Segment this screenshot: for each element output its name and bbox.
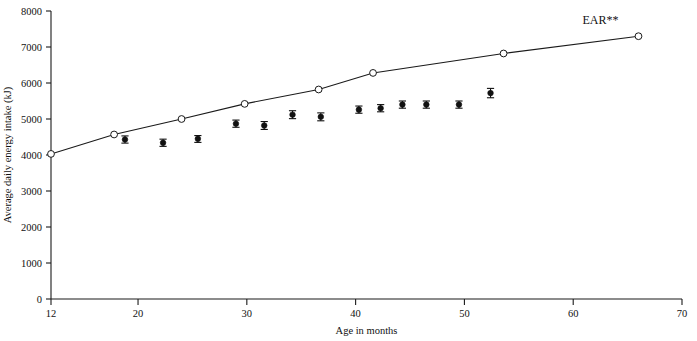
x-tick-label: 30 [242,308,253,319]
data-point-filled-circle [290,112,296,118]
data-point-filled-circle [456,102,462,108]
y-tick-label: 2000 [21,222,42,233]
data-point-filled-circle [400,102,406,108]
data-point-open-circle [48,151,55,158]
data-point-open-circle [635,33,642,40]
data-point-open-circle [370,70,377,77]
y-tick-label: 0 [37,294,42,305]
x-tick-label: 50 [459,308,470,319]
series-line-open-circle [51,36,638,154]
data-point-open-circle [178,116,185,123]
y-tick-label: 8000 [21,6,42,17]
data-point-filled-circle [378,105,384,111]
data-point-filled-circle [195,136,201,142]
x-tick-label: 40 [350,308,361,319]
y-axis-title: Average daily energy intake (kJ) [2,86,14,223]
data-point-open-circle [241,100,248,107]
y-axis-ticks: 010002000300040005000600070008000 [21,6,51,305]
data-point-filled-circle [160,140,166,146]
data-point-filled-circle [233,121,239,127]
figure-container: 010002000300040005000600070008000 122030… [0,0,697,341]
series-annotation-label: EAR** [582,13,618,27]
data-series-layer [48,33,642,158]
data-point-open-circle [111,131,118,138]
y-tick-label: 1000 [21,258,42,269]
data-point-filled-circle [488,90,494,96]
data-point-filled-circle [318,114,324,120]
y-tick-label: 6000 [21,78,42,89]
data-point-filled-circle [356,107,362,113]
y-tick-label: 5000 [21,114,42,125]
data-point-open-circle [315,86,322,93]
x-axis-title: Age in months [336,325,398,336]
x-tick-label: 60 [568,308,579,319]
y-tick-label: 7000 [21,42,42,53]
annotation-layer: EAR** [582,13,618,27]
data-point-filled-circle [424,102,430,108]
x-tick-label: 20 [133,308,144,319]
data-point-open-circle [500,50,507,57]
y-tick-label: 3000 [21,186,42,197]
data-point-filled-circle [122,137,128,143]
y-tick-label: 4000 [21,150,42,161]
data-point-filled-circle [261,123,267,129]
energy-intake-chart: 010002000300040005000600070008000 122030… [0,0,697,341]
x-tick-label: 12 [46,308,57,319]
x-tick-label: 70 [677,308,688,319]
x-axis-ticks: 12203040506070 [46,299,688,319]
